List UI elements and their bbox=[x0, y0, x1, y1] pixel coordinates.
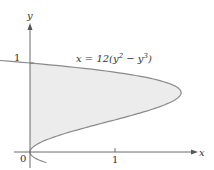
origin-label: 0 bbox=[20, 153, 26, 164]
y-tick-label-1: 1 bbox=[14, 52, 20, 63]
x-tick-label-1: 1 bbox=[112, 154, 118, 165]
plot: y x 0 1 1 x = 12(y2 − y3) bbox=[0, 0, 214, 170]
x-axis-arrow-icon bbox=[191, 150, 198, 155]
y-axis-label: y bbox=[26, 10, 33, 21]
x-axis-label: x bbox=[199, 147, 205, 158]
equation-label: x = 12(y2 − y3) bbox=[76, 52, 152, 64]
y-axis-arrow-icon bbox=[28, 23, 33, 30]
